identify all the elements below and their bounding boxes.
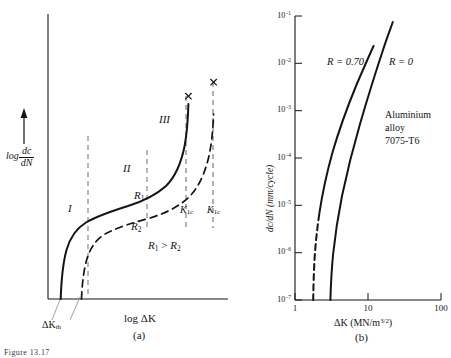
ytick-2-exponent: −3 (285, 104, 291, 110)
curve-label-R1: R1 (134, 190, 144, 202)
ytick-0-mantissa: 10 (277, 11, 285, 20)
toughness-label-k1c-solid: K1c (180, 205, 193, 216)
panel-b-x-axis-label-tail: ) (389, 317, 392, 328)
ytick-3-exponent: −4 (285, 152, 291, 158)
ytick-4-exponent: −5 (285, 199, 291, 205)
curve-R1-solid (61, 104, 189, 299)
ytick-6-exponent: −7 (285, 294, 291, 300)
k1c-dashed-main: K (207, 204, 214, 215)
ytick-1-exponent: −2 (285, 57, 291, 63)
panel-b-y-axis-label: dc/dN (mm/cycle) (266, 165, 276, 232)
material-line-1: Aluminium (385, 110, 431, 120)
leader-threshold-dashed (70, 297, 80, 320)
ratio-note-b-sub: 2 (177, 244, 181, 253)
threshold-label-sub: th (56, 323, 61, 330)
region-label-II: II (123, 163, 130, 174)
curve-label-R1-sub: 1 (141, 194, 145, 203)
panel-b-y-ticks (295, 16, 302, 300)
panel-b-ytick-2: 10−3 (267, 105, 291, 114)
panel-b-ytick-3: 10−4 (267, 153, 291, 162)
ratio-note-a-main: R (148, 239, 155, 251)
curve-R070-solid (319, 46, 373, 213)
panel-b-ytick-1: 10−2 (267, 58, 291, 67)
ratio-note-a-sub: 1 (155, 244, 159, 253)
k1c-solid-sub: 1c (187, 208, 193, 215)
panel-b-xtick-2: 100 (431, 304, 451, 313)
panel-a-y-axis-log: log (6, 150, 19, 161)
panel-b-ytick-0: 10−1 (267, 11, 291, 20)
curve-R070-threshold-dashed (313, 213, 319, 300)
threshold-label-main: ΔK (42, 319, 56, 330)
threshold-label: ΔKth (42, 320, 61, 331)
panel-a-caption: (a) (133, 330, 145, 341)
curve-label-R1-main: R (134, 189, 141, 201)
ratio-note: R1 > R2 (148, 240, 181, 252)
panel-a-x-axis-label: log ΔK (124, 313, 156, 324)
panel-b-ytick-6: 10−7 (267, 295, 291, 304)
ratio-note-b-main: R (170, 239, 177, 251)
ytick-3-mantissa: 10 (277, 153, 285, 162)
ytick-6-mantissa: 10 (277, 295, 285, 304)
figure-svg (0, 0, 451, 358)
panel-b-x-axis-label: ΔK (MN/m3/2) (334, 318, 392, 328)
upward-arrow-icon (21, 108, 28, 144)
panel-b-caption: (b) (355, 332, 368, 343)
book-figure-caption: Figure 13.17 (4, 349, 50, 357)
series-label-R070: R = 0.70 (327, 57, 364, 68)
panel-b-x-axis-label-sup: 3/2 (380, 317, 389, 324)
panel-a-y-axis-numerator: dc (19, 146, 35, 157)
panel-b-ytick-5: 10−6 (267, 247, 291, 256)
panel-b-graphics (295, 16, 441, 300)
region-label-I: I (68, 203, 72, 214)
region-label-III: III (159, 114, 170, 125)
panel-b-x-ticks (295, 293, 441, 300)
ytick-4-mantissa: 10 (277, 200, 285, 209)
curve-label-R2: R2 (131, 221, 141, 233)
ytick-2-mantissa: 10 (277, 105, 285, 114)
panel-a-y-axis-denominator: dN (19, 157, 35, 169)
panel-a-y-axis-label: logdcdN (6, 146, 34, 168)
k1c-dashed-sub: 1c (214, 208, 220, 215)
ratio-note-operator: > (161, 239, 167, 251)
curve-label-R2-sub: 2 (138, 225, 142, 234)
material-line-3: 7075-T6 (385, 136, 419, 146)
ytick-1-mantissa: 10 (277, 58, 285, 67)
ytick-5-exponent: −6 (285, 246, 291, 252)
failure-marker-dashed (210, 79, 216, 85)
panel-b-xtick-1: 10 (360, 304, 376, 313)
panel-b-x-axis-label-main: ΔK (MN/m (334, 317, 380, 328)
leader-threshold-solid (52, 297, 61, 320)
series-label-R0: R = 0 (389, 57, 413, 68)
panel-b-xtick-0: 1 (287, 304, 303, 313)
ytick-5-mantissa: 10 (277, 247, 285, 256)
material-line-2: alloy (385, 123, 405, 133)
curve-label-R2-main: R (131, 220, 138, 232)
toughness-label-k1c-dashed: K1c (207, 205, 220, 216)
k1c-solid-main: K (180, 204, 187, 215)
figure-root: logdcdN I II III R1 R2 R1 > R2 K1c K1c Δ… (0, 0, 451, 358)
ytick-0-exponent: −1 (285, 10, 291, 16)
